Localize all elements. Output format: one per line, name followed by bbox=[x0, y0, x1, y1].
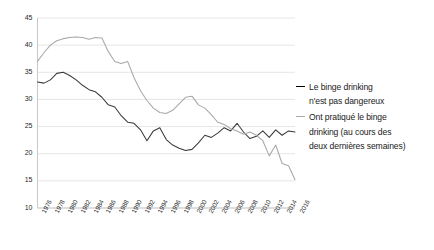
chart-container: 1015202530354045 19761978198019821984198… bbox=[0, 0, 434, 250]
legend-label-line1: Ont pratiqué le binge bbox=[309, 110, 434, 124]
legend-label-line2: n'est pas dangereux bbox=[309, 94, 434, 108]
legend-label-line2: drinking (au cours des bbox=[309, 125, 434, 139]
y-axis-tick-label: 15 bbox=[17, 176, 33, 183]
series-line-0 bbox=[38, 72, 296, 150]
legend-label-line1: Le binge drinking bbox=[309, 80, 434, 94]
legend-entry-practiced-binge[interactable]: Ont pratiqué le binge drinking (au cours… bbox=[296, 110, 434, 153]
y-axis-tick-label: 20 bbox=[17, 149, 33, 156]
series-paths bbox=[38, 37, 296, 180]
series-line-1 bbox=[38, 37, 296, 180]
y-axis-tick-label: 35 bbox=[17, 68, 33, 75]
y-axis-tick-label: 30 bbox=[17, 95, 33, 102]
y-axis-tick-label: 25 bbox=[17, 122, 33, 129]
y-axis-tick-label: 10 bbox=[17, 204, 33, 211]
legend-swatch-dark-icon bbox=[296, 86, 305, 87]
y-axis-tick-label: 45 bbox=[17, 14, 33, 21]
legend-label-line3: deux dernières semaines) bbox=[309, 139, 434, 153]
legend-swatch-light-icon bbox=[296, 116, 305, 117]
legend-entry-binge-not-dangerous[interactable]: Le binge drinking n'est pas dangereux bbox=[296, 80, 434, 108]
y-axis-tick-label: 40 bbox=[17, 41, 33, 48]
chart-legend: Le binge drinking n'est pas dangereux On… bbox=[296, 80, 434, 155]
